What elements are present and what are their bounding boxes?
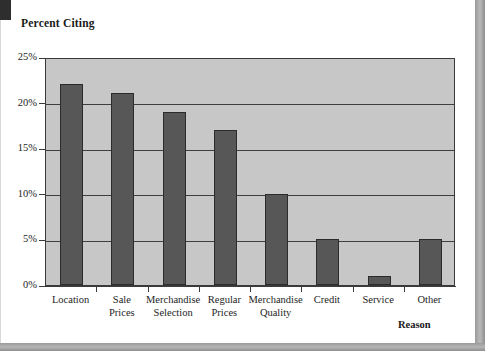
bar [419,239,442,285]
x-tick [250,287,251,292]
y-tick-15% [39,149,45,150]
bar [60,84,83,285]
y-axis-line [45,58,46,287]
y-axis-tick-label: 5% [1,233,37,244]
y-tick-5% [39,240,45,241]
y-tick-10% [39,194,45,195]
bar [265,194,288,285]
plot-area [45,58,455,286]
bar [163,112,186,285]
y-axis-tick-label: 20% [1,97,37,108]
bar [316,239,339,285]
x-tick [301,287,302,292]
y-tick-20% [39,103,45,104]
x-tick [353,287,354,292]
x-tick [404,287,405,292]
bar [111,93,134,285]
x-axis-tick-label: Other [398,294,461,307]
x-axis-title: Reason [398,319,431,330]
y-axis-tick-label: 25% [1,51,37,62]
y-tick-25% [39,58,45,59]
y-axis-tick-label: 15% [1,142,37,153]
y-tick-0% [39,286,45,287]
bar [368,276,391,285]
y-axis-labels: 0%5%10%15%20%25% [0,0,37,353]
bar [214,130,237,285]
x-tick [96,287,97,292]
page-right-frame [475,0,485,349]
x-tick [199,287,200,292]
page-bottom-frame [0,343,485,351]
y-axis-tick-label: 10% [1,188,37,199]
bar-series [46,59,454,285]
x-tick [148,287,149,292]
y-axis-tick-label: 0% [1,279,37,290]
scanned-page: Percent Citing 0%5%10%15%20%25% Location… [0,0,492,353]
